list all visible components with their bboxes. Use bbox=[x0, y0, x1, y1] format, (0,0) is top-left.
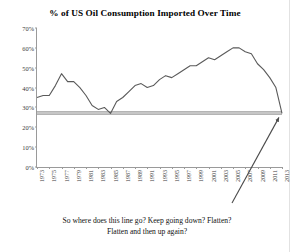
annotation-arrow bbox=[0, 0, 304, 252]
chart-figure: % of US Oil Consumption Imported Over Ti… bbox=[0, 0, 304, 252]
annotation-line-2: Flatten and then up again? bbox=[4, 227, 290, 238]
annotation-line-1: So where does this line go? Keep going d… bbox=[63, 216, 232, 225]
chart-annotation-text: So where does this line go? Keep going d… bbox=[4, 216, 290, 237]
